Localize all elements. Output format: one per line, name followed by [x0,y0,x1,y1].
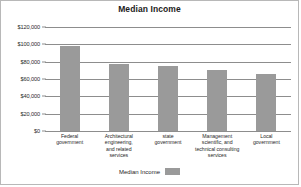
x-axis-category-labels: FederalgovernmentArchitecturalengineerin… [45,133,291,169]
y-tick-label: $80,000 [20,59,40,65]
bars-layer [45,27,291,131]
x-tick-label: Federalgovernment [45,133,94,146]
chart-legend: Median Income [1,168,298,175]
chart-container: Median Income $120,000$100,000$80,000$60… [0,0,299,185]
bar[interactable] [109,64,129,131]
bar-slot [45,27,94,131]
y-tick-label: $40,000 [20,93,40,99]
bar-slot [242,27,291,131]
y-axis: $120,000$100,000$80,000$60,000$40,000$20… [1,27,42,131]
bar[interactable] [207,70,227,131]
legend-label: Median Income [119,169,160,175]
y-tick-label: $20,000 [20,111,40,117]
bar-slot [143,27,192,131]
y-tick-label: $60,000 [20,76,40,82]
bar[interactable] [158,66,178,131]
x-tick-label: Localgovernment [242,133,291,146]
x-tick-label: Managementscientific, andtechnical consu… [193,133,242,159]
bar-slot [193,27,242,131]
x-tick-label: stategovernment [143,133,192,146]
x-tick-label: Architecturalengineering,and relatedserv… [94,133,143,159]
bar[interactable] [60,46,80,131]
legend-color-swatch [165,168,180,175]
y-tick-label: $120,000 [17,24,40,30]
bar[interactable] [256,74,276,131]
y-tick-label: $100,000 [17,41,40,47]
chart-title: Median Income [1,4,298,14]
gridline [45,131,291,132]
y-tick-label: $0 [34,128,40,134]
bar-slot [94,27,143,131]
